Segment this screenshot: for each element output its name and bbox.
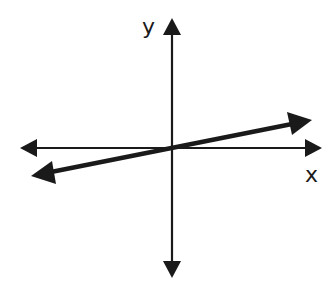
- line-right-arrow-icon: [287, 112, 312, 135]
- y-axis-label: y: [142, 14, 155, 39]
- x-axis-label: x: [305, 162, 318, 187]
- coordinate-plane: y x: [0, 0, 332, 283]
- x-axis-left-arrow-icon: [20, 139, 37, 157]
- y-axis-top-arrow-icon: [163, 18, 181, 35]
- line-left-arrow-icon: [31, 161, 56, 184]
- x-axis-right-arrow-icon: [305, 139, 322, 157]
- y-axis-bottom-arrow-icon: [163, 261, 181, 278]
